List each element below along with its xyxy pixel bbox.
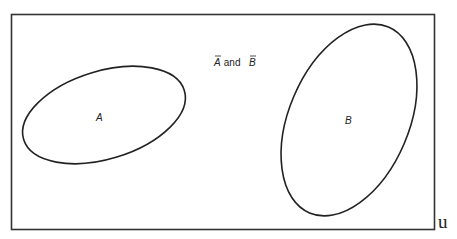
set-b-label: B [345,115,352,126]
universe-label: u [438,212,448,231]
region-label-and: and [221,57,243,68]
region-label-a-bar-and-b-bar: A and B [213,56,256,68]
region-label-b: B [249,57,256,68]
venn-diagram: A B A and B [0,0,457,239]
set-a-label: A [95,112,103,123]
set-a-ellipse [11,48,197,181]
universe-box [12,15,435,230]
region-label-a: A [213,57,221,68]
